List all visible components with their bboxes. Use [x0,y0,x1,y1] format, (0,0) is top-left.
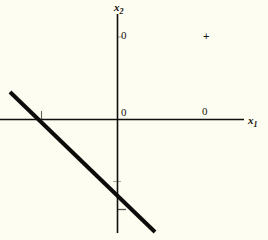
plot-canvas [0,0,268,240]
plus-point-marker: + [203,31,209,42]
x-axis-tick-label: 0 [202,106,208,117]
constraint-line [10,92,155,232]
y-axis-label-subscript: 2 [120,7,124,16]
y-axis-tick-label: 0 [121,30,127,41]
coordinate-plot-figure: x2 x1 0 0 0 + [0,0,268,240]
x-axis-label-subscript: 1 [254,120,258,129]
origin-label: 0 [121,107,127,118]
y-axis-label: x2 [114,2,124,16]
x-axis-label: x1 [248,115,258,129]
